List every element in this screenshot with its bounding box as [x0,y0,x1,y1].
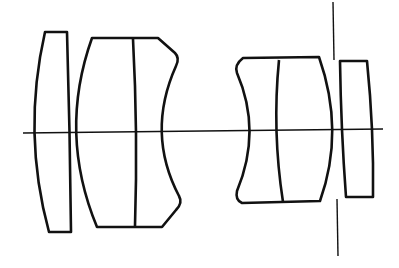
lens-diagram-canvas [0,0,399,268]
front-doublet-cement-line [133,39,136,226]
rear-doublet-cement-line [276,60,283,202]
lens-diagram [0,0,399,268]
aperture-stop-upper [333,2,334,60]
aperture-stop-lower [337,199,338,256]
